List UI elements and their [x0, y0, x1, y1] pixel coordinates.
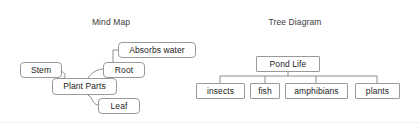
node-fish[interactable]: fish: [250, 83, 280, 99]
node-amphibians[interactable]: amphibians: [285, 83, 348, 99]
diagram-canvas: Mind Map Tree Diagram StemPlant PartsRoo…: [0, 0, 419, 123]
node-leaf[interactable]: Leaf: [98, 98, 140, 114]
tree-diagram-title: Tree Diagram: [200, 17, 390, 27]
node-plants[interactable]: plants: [355, 83, 400, 99]
node-absorbs-water[interactable]: Absorbs water: [118, 42, 196, 58]
node-pond-life[interactable]: Pond Life: [256, 56, 320, 72]
node-plant-parts[interactable]: Plant Parts: [52, 78, 117, 95]
connector-plant-parts-to-root: [88, 69, 103, 78]
node-stem[interactable]: Stem: [20, 62, 62, 78]
node-root[interactable]: Root: [103, 62, 145, 78]
node-insects[interactable]: insects: [196, 83, 245, 99]
connector-plant-parts-to-leaf: [88, 95, 98, 105]
mind-map-title: Mind Map: [0, 17, 222, 27]
